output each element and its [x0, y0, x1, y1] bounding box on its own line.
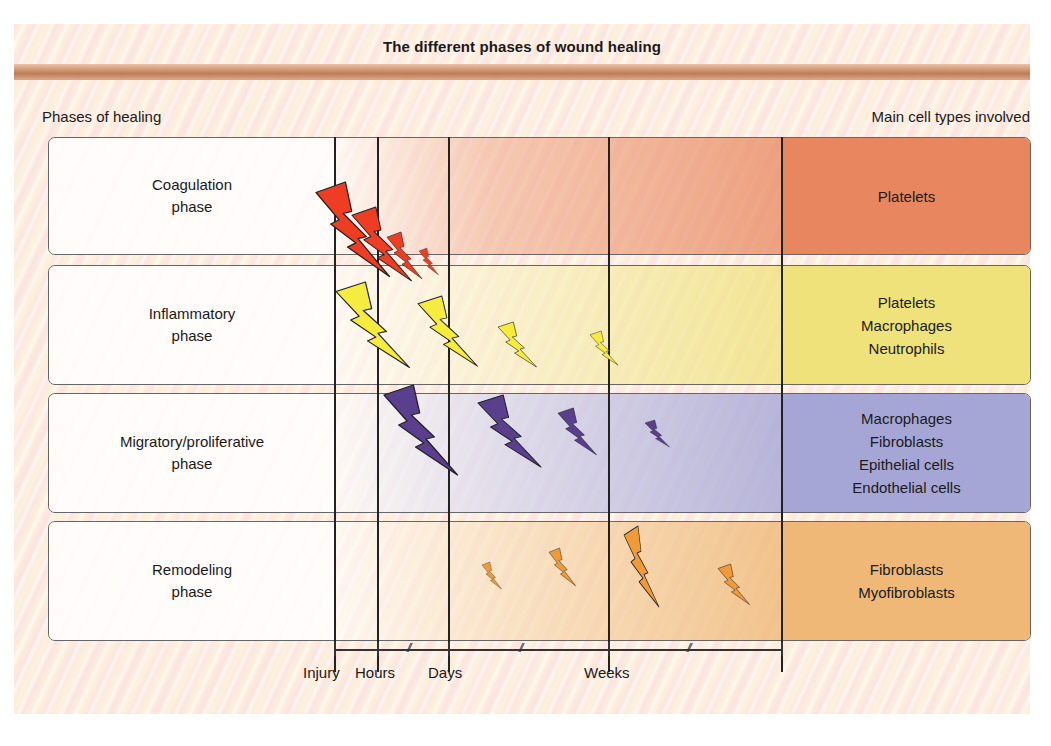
phase-name: Migratory/proliferative	[120, 431, 264, 453]
axis-label-days: Days	[428, 664, 462, 681]
axis-tick	[608, 642, 610, 656]
timeline-area	[335, 394, 782, 512]
phase-label: Inflammatoryphase	[49, 266, 335, 384]
axis-break-icon: //	[407, 641, 410, 655]
cell-types: Macrophages Fibroblasts Epithelial cells…	[783, 394, 1030, 512]
row-inflammatory: Inflammatoryphase Platelets Macrophages …	[48, 265, 1031, 385]
axis-tick	[781, 642, 783, 656]
row-remodeling: Remodelingphase Fibroblasts Myofibroblas…	[48, 521, 1031, 641]
cell-type: Macrophages	[852, 407, 960, 430]
timeline-divider-injury	[334, 137, 336, 672]
axis-tick	[334, 642, 336, 656]
phases-header: Phases of healing	[42, 108, 161, 125]
cell-type: Platelets	[878, 185, 936, 208]
phase-name: Coagulation	[152, 174, 232, 196]
timeline-divider-hours	[377, 137, 379, 672]
phase-label: Coagulationphase	[49, 138, 335, 254]
cell-types-header: Main cell types involved	[790, 108, 1030, 125]
phase-suffix: phase	[152, 196, 232, 218]
phase-suffix: phase	[120, 453, 264, 475]
row-coagulation: Coagulationphase Platelets	[48, 137, 1031, 255]
phase-suffix: phase	[152, 581, 232, 603]
timeline-divider-end	[781, 137, 783, 672]
time-axis	[334, 649, 781, 651]
axis-break-icon: //	[687, 641, 690, 655]
cell-types: Platelets Macrophages Neutrophils	[783, 266, 1030, 384]
timeline-area	[335, 138, 782, 254]
phase-label: Remodelingphase	[49, 522, 335, 640]
axis-tick	[377, 642, 379, 656]
wound-healing-diagram: The different phases of wound healing Ph…	[14, 24, 1030, 714]
axis-tick	[448, 642, 450, 656]
phase-suffix: phase	[149, 325, 236, 347]
timeline-area	[335, 522, 782, 640]
axis-label-injury: Injury	[303, 664, 340, 681]
cell-types: Platelets	[783, 138, 1030, 254]
timeline-area	[335, 266, 782, 384]
timeline-divider-weeks	[608, 137, 610, 672]
cell-type: Myofibroblasts	[858, 581, 955, 604]
phase-name: Inflammatory	[149, 303, 236, 325]
cell-type: Fibroblasts	[858, 558, 955, 581]
axis-break-icon: //	[519, 641, 522, 655]
cell-type: Epithelial cells	[852, 453, 960, 476]
cell-type: Fibroblasts	[852, 430, 960, 453]
cell-type: Platelets	[861, 291, 952, 314]
title-band	[14, 64, 1030, 80]
axis-label-hours: Hours	[355, 664, 395, 681]
phase-label: Migratory/proliferativephase	[49, 394, 335, 512]
timeline-divider-days	[448, 137, 450, 672]
cell-type: Endothelial cells	[852, 476, 960, 499]
figure-title: The different phases of wound healing	[14, 38, 1030, 55]
row-migratory-proliferative: Migratory/proliferativephase Macrophages…	[48, 393, 1031, 513]
cell-type: Macrophages	[861, 314, 952, 337]
cell-types: Fibroblasts Myofibroblasts	[783, 522, 1030, 640]
axis-label-weeks: Weeks	[584, 664, 630, 681]
phase-name: Remodeling	[152, 559, 232, 581]
cell-type: Neutrophils	[861, 337, 952, 360]
